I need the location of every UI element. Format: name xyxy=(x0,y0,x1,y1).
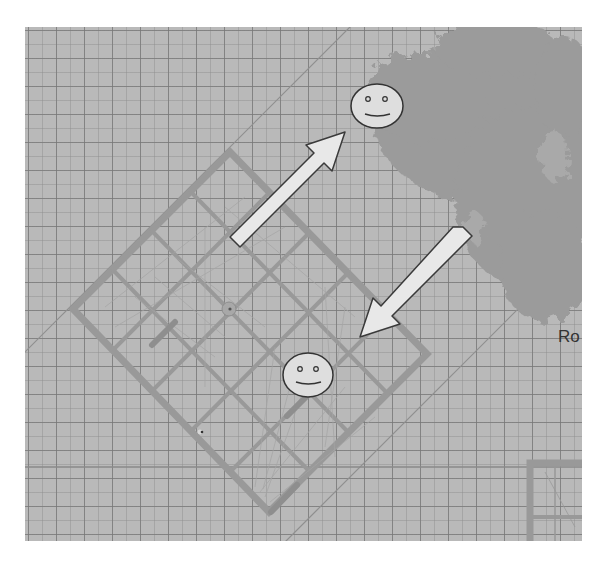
edge-label: Ro xyxy=(558,327,580,347)
agent-smiley-bottom[interactable] xyxy=(25,27,582,541)
map-viewport[interactable]: Ro xyxy=(25,27,582,541)
